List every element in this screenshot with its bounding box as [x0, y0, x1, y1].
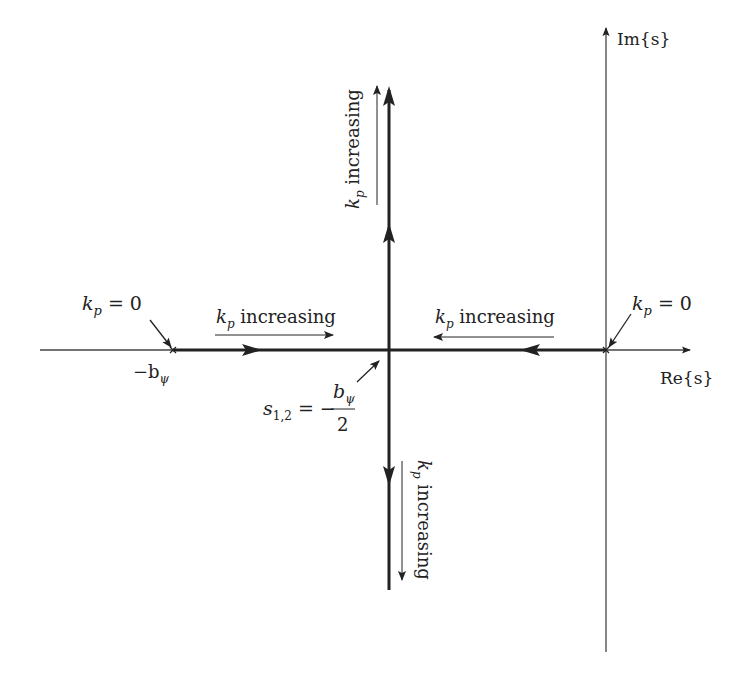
breakaway-label-lhs: s1,2 = −	[263, 397, 336, 423]
pole-neg-b-pointer-arrow	[150, 320, 171, 347]
direction-label-left-branch: kp increasing	[216, 306, 336, 331]
root-locus-diagram: Im{s} Re{s} kp = 0 −bψ kp = 0 s1,2 = − b…	[0, 0, 753, 680]
pole-neg-b-label: −bψ	[133, 361, 170, 386]
pole-origin-gain-label: kp = 0	[632, 292, 692, 318]
breakaway-denominator: 2	[337, 414, 348, 435]
direction-label-right-branch: kp increasing	[435, 306, 555, 331]
breakaway-numerator: bψ	[333, 380, 355, 406]
direction-label-upper-branch: kp increasing	[342, 89, 367, 209]
breakaway-pointer-arrow	[357, 361, 379, 382]
real-axis-label: Re{s}	[660, 368, 713, 388]
imaginary-axis-label: Im{s}	[617, 29, 670, 49]
pole-neg-b-gain-label: kp = 0	[82, 292, 142, 318]
direction-label-lower-branch: kp increasing	[410, 460, 435, 580]
pole-origin-pointer-arrow	[609, 314, 631, 347]
